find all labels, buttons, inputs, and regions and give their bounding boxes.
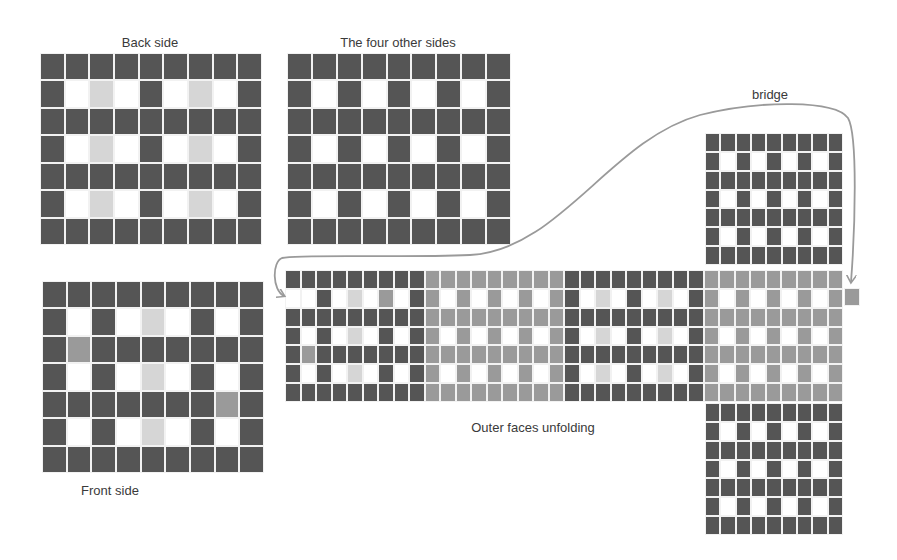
- grid-cell: [461, 80, 486, 107]
- grid-cell: [797, 460, 812, 479]
- grid-cell: [705, 403, 720, 422]
- grid-cell: [518, 345, 534, 364]
- grid-cell: [91, 281, 116, 308]
- grid-cell: [533, 327, 549, 346]
- grid-cell: [486, 108, 511, 135]
- grid-cell: [797, 345, 813, 364]
- grid-cell: [720, 246, 735, 265]
- grid-cell: [812, 270, 828, 289]
- grid-cell: [720, 460, 735, 479]
- grid-cell: [705, 171, 720, 190]
- grid-cell: [363, 383, 379, 402]
- grid-cell: [237, 80, 262, 107]
- grid-cell: [736, 460, 751, 479]
- grid-cell: [461, 163, 486, 190]
- grid-cell: [141, 418, 166, 445]
- grid-cell: [436, 53, 461, 80]
- grid-cell: [766, 327, 782, 346]
- grid-cell: [719, 308, 735, 327]
- grid-cell: [751, 403, 766, 422]
- grid-cell: [812, 460, 827, 479]
- grid-cell: [533, 383, 549, 402]
- grid-cell: [165, 363, 190, 390]
- grid-cell: [502, 364, 518, 383]
- grid-cell: [487, 289, 503, 308]
- grid-cell: [626, 364, 642, 383]
- grid-cell: [812, 133, 827, 152]
- grid-cell: [766, 478, 781, 497]
- grid-cell: [580, 327, 596, 346]
- grid-cell: [487, 345, 503, 364]
- grid-cell: [425, 383, 441, 402]
- grid-cell: [626, 308, 642, 327]
- grid-cell: [42, 336, 67, 363]
- grid-cell: [642, 308, 658, 327]
- grid-cell: [190, 363, 215, 390]
- grid-cell: [312, 135, 337, 162]
- grid-cell: [502, 383, 518, 402]
- grid-cell: [781, 327, 797, 346]
- grid-cell: [425, 327, 441, 346]
- grid-cell: [797, 227, 812, 246]
- grid-cell: [116, 391, 141, 418]
- grid-cell: [828, 289, 844, 308]
- outer-faces-unfolding-label: Outer faces unfolding: [471, 420, 595, 435]
- grid-cell: [188, 108, 213, 135]
- grid-cell: [719, 383, 735, 402]
- grid-cell: [657, 270, 673, 289]
- grid-cell: [378, 270, 394, 289]
- grid-cell: [782, 133, 797, 152]
- grid-cell: [190, 336, 215, 363]
- grid-cell: [735, 270, 751, 289]
- grid-cell: [705, 152, 720, 171]
- grid-cell: [287, 135, 312, 162]
- grid-cell: [828, 227, 843, 246]
- grid-cell: [471, 345, 487, 364]
- grid-cell: [316, 383, 332, 402]
- grid-cell: [704, 308, 720, 327]
- bridge-cell: [844, 288, 860, 306]
- grid-cell: [812, 289, 828, 308]
- grid-cell: [828, 441, 843, 460]
- grid-cell: [828, 478, 843, 497]
- grid-cell: [42, 391, 67, 418]
- grid-cell: [471, 270, 487, 289]
- grid-cell: [285, 327, 301, 346]
- grid-cell: [766, 133, 781, 152]
- grid-cell: [595, 327, 611, 346]
- grid-cell: [436, 135, 461, 162]
- grid-cell: [139, 190, 164, 217]
- grid-cell: [626, 345, 642, 364]
- back-side-grid: [40, 53, 262, 245]
- grid-cell: [705, 516, 720, 535]
- grid-cell: [518, 308, 534, 327]
- grid-cell: [673, 289, 689, 308]
- grid-cell: [394, 383, 410, 402]
- grid-cell: [828, 246, 843, 265]
- grid-cell: [828, 171, 843, 190]
- grid-cell: [301, 289, 317, 308]
- grid-cell: [704, 345, 720, 364]
- grid-cell: [436, 80, 461, 107]
- grid-cell: [190, 391, 215, 418]
- grid-cell: [165, 281, 190, 308]
- grid-cell: [673, 327, 689, 346]
- grid-cell: [363, 327, 379, 346]
- grid-cell: [828, 403, 843, 422]
- grid-cell: [828, 327, 844, 346]
- grid-cell: [502, 289, 518, 308]
- grid-cell: [411, 53, 436, 80]
- grid-cell: [797, 478, 812, 497]
- grid-cell: [337, 163, 362, 190]
- grid-cell: [782, 497, 797, 516]
- grid-cell: [42, 446, 67, 473]
- grid-cell: [751, 208, 766, 227]
- grid-cell: [114, 108, 139, 135]
- grid-cell: [549, 364, 565, 383]
- grid-cell: [215, 418, 240, 445]
- grid-cell: [163, 135, 188, 162]
- grid-cell: [89, 108, 114, 135]
- grid-cell: [471, 308, 487, 327]
- grid-cell: [736, 478, 751, 497]
- grid-cell: [580, 364, 596, 383]
